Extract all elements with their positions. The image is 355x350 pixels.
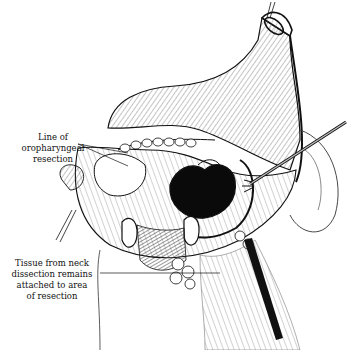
label-line: resection: [8, 154, 98, 165]
label-line: oropharyngeal: [8, 143, 98, 154]
label-line: of resection: [2, 291, 102, 302]
label-line: Tissue from neck: [2, 258, 102, 269]
label-tissue-from-neck-dissection: Tissue from neck dissection remains atta…: [2, 258, 102, 302]
label-line: Line of: [8, 132, 98, 143]
surgical-illustration: Line of oropharyngeal resection Tissue f…: [0, 0, 355, 350]
label-line: attached to area: [2, 280, 102, 291]
label-line-of-oropharyngeal-resection: Line of oropharyngeal resection: [8, 132, 98, 165]
left-lobule: [60, 165, 84, 190]
retractor: [56, 210, 76, 242]
label-line: dissection remains: [2, 269, 102, 280]
